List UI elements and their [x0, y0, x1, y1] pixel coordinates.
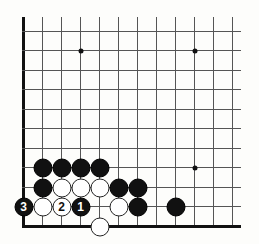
black-stone	[109, 178, 128, 197]
white-stone	[90, 178, 109, 197]
white-stone	[71, 178, 90, 197]
white-stone	[109, 197, 128, 216]
grid-vertical-line	[232, 17, 233, 227]
black-stone	[33, 178, 52, 197]
white-stone	[33, 197, 52, 216]
board-left-edge	[22, 17, 25, 227]
black-stone	[33, 158, 52, 177]
black-stone	[90, 158, 109, 177]
black-stone	[128, 197, 147, 216]
grid-horizontal-line	[22, 148, 241, 149]
grid-horizontal-line	[22, 89, 241, 90]
grid-horizontal-line	[22, 31, 241, 32]
star-point	[192, 165, 197, 170]
black-stone	[71, 158, 90, 177]
star-point	[192, 48, 197, 53]
grid-horizontal-line	[22, 109, 241, 110]
grid-horizontal-line	[22, 128, 241, 129]
grid-vertical-line	[213, 17, 214, 227]
grid-vertical-line	[175, 17, 176, 227]
white-stone-move-2: 2	[52, 197, 71, 216]
go-board: 321	[0, 0, 259, 244]
black-stone-move-3: 3	[14, 197, 33, 216]
white-stone	[90, 217, 109, 236]
grid-horizontal-line	[22, 50, 241, 51]
board-bottom-edge	[22, 225, 241, 228]
black-stone	[166, 197, 185, 216]
black-stone	[128, 178, 147, 197]
white-stone	[52, 178, 71, 197]
black-stone	[52, 158, 71, 177]
star-point	[78, 48, 83, 53]
grid-vertical-line	[156, 17, 157, 227]
grid-horizontal-line	[22, 70, 241, 71]
black-stone-move-1: 1	[71, 197, 90, 216]
